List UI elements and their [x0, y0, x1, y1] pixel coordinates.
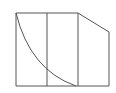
background — [0, 0, 116, 93]
geometric-diagram — [0, 0, 116, 93]
